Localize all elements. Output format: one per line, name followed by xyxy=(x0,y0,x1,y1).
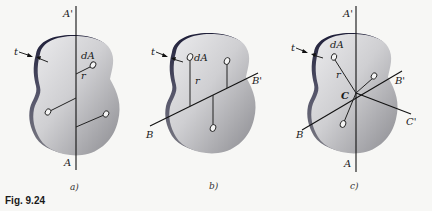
panel-sublabel: b) xyxy=(209,181,219,191)
axis-b-left-label: B xyxy=(295,129,303,140)
arrowhead-icon xyxy=(302,49,308,53)
centroid-label: C xyxy=(341,90,349,101)
arrowhead-icon xyxy=(27,53,33,57)
thickness-label: t xyxy=(291,42,296,53)
figure-canvas: A' A dA r t a) B B' dA r xyxy=(0,0,432,211)
plate-c xyxy=(307,33,397,153)
panel-c: A' A B B' C' C dA r t c) xyxy=(291,6,416,191)
axis-left-label: B xyxy=(145,129,153,140)
plate-b xyxy=(165,33,255,153)
arrowhead-icon xyxy=(162,53,168,57)
axis-c-right-label: C' xyxy=(406,116,416,127)
axis-b-right-label: B' xyxy=(394,75,405,86)
panel-sublabel: a) xyxy=(70,182,79,192)
element-label: dA xyxy=(194,52,208,63)
panel-sublabel: c) xyxy=(350,181,359,191)
axis-bottom-label: A xyxy=(63,157,71,168)
axis-top-label: A' xyxy=(342,8,353,19)
thickness-label: t xyxy=(14,46,19,57)
panel-b: B B' dA r t b) xyxy=(145,33,262,191)
panel-a: A' A dA r t a) xyxy=(14,6,120,192)
plate-a xyxy=(29,35,119,155)
thickness-label: t xyxy=(151,46,156,57)
axis-bottom-label: A xyxy=(343,158,351,169)
axis-right-label: B' xyxy=(251,75,262,86)
element-label: dA xyxy=(330,39,344,50)
figure-caption: Fig. 9.24 xyxy=(5,195,45,206)
axis-top-label: A' xyxy=(62,8,73,19)
element-label: dA xyxy=(81,50,95,61)
